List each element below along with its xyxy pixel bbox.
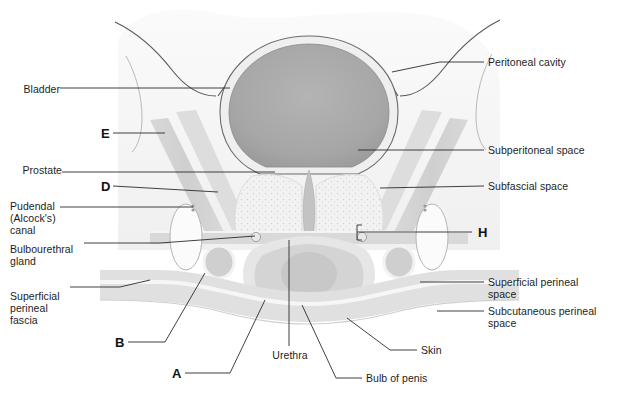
letter-marker-d: D bbox=[101, 179, 110, 194]
label-superficial-perineal-fascia: Superficial perineal fascia bbox=[10, 290, 70, 327]
bladder bbox=[220, 36, 398, 174]
label-bladder: Bladder bbox=[14, 83, 60, 95]
label-superficial-perineal-space: Superficial perineal space bbox=[488, 276, 616, 300]
label-subcutaneous-perineal-space: Subcutaneous perineal space bbox=[488, 305, 619, 329]
label-prostate: Prostate bbox=[10, 164, 62, 176]
label-bulbourethral-gland: Bulbourethral gland bbox=[10, 243, 84, 267]
letter-marker-h: H bbox=[478, 225, 487, 240]
label-skin: Skin bbox=[421, 344, 461, 356]
label-subfascial-space: Subfascial space bbox=[488, 180, 614, 192]
label-pudendal-canal: Pudendal (Alcock's) canal bbox=[10, 200, 60, 237]
figure-canvas: Bladder Prostate Pudendal (Alcock's) can… bbox=[0, 0, 619, 400]
letter-marker-e: E bbox=[101, 126, 110, 141]
label-urethra: Urethra bbox=[262, 349, 318, 361]
label-peritoneal-cavity: Peritoneal cavity bbox=[488, 56, 614, 68]
bulbourethral-gland-left bbox=[251, 232, 260, 241]
label-bulb-of-penis: Bulb of penis bbox=[366, 372, 446, 384]
label-subperitoneal-space: Subperitoneal space bbox=[488, 144, 614, 156]
letter-marker-a: A bbox=[172, 366, 181, 381]
letter-marker-b: B bbox=[115, 335, 124, 350]
